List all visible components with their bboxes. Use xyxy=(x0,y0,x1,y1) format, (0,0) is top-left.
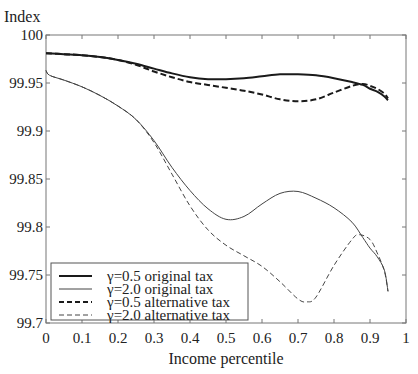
legend: γ=0.5 original tax γ=2.0 original tax γ=… xyxy=(51,263,248,323)
series-line-1 xyxy=(46,71,388,292)
y-tick-labels: 10099.9599.999.8599.899.7599.7 xyxy=(9,27,43,331)
series-line-0 xyxy=(46,53,388,100)
y-tick-label: 100 xyxy=(21,27,44,43)
y-tick-label: 99.9 xyxy=(17,123,43,139)
y-tick-label: 99.8 xyxy=(17,219,43,235)
x-tick-label: 0 xyxy=(42,330,50,346)
x-tick-label: 1 xyxy=(402,330,410,346)
x-tick-label: 0.7 xyxy=(289,330,308,346)
x-tick-label: 0.1 xyxy=(73,330,92,346)
x-tick-label: 0.6 xyxy=(253,330,272,346)
x-axis-title: Income percentile xyxy=(168,350,283,368)
y-tick-label: 99.75 xyxy=(9,267,43,283)
x-tick-label: 0.5 xyxy=(217,330,236,346)
x-tick-label: 0.4 xyxy=(181,330,200,346)
x-tick-label: 0.3 xyxy=(145,330,164,346)
legend-label: γ=2.0 alternative tax xyxy=(106,307,230,323)
x-tick-labels: 00.10.20.30.40.50.60.70.80.91 xyxy=(42,330,410,346)
y-tick-label: 99.85 xyxy=(9,171,43,187)
y-tick-label: 99.7 xyxy=(17,315,44,331)
line-chart: Index 10099.9599.999.8599.899.7599.7 00.… xyxy=(0,0,418,374)
y-axis-title: Index xyxy=(4,8,40,25)
x-tick-label: 0.9 xyxy=(361,330,380,346)
x-tick-label: 0.2 xyxy=(109,330,128,346)
x-tick-label: 0.8 xyxy=(325,330,344,346)
y-tick-label: 99.95 xyxy=(9,75,43,91)
